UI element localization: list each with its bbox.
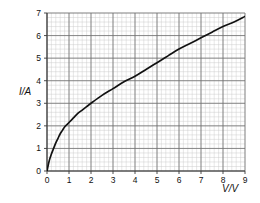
y-tick-label: 3 bbox=[36, 98, 41, 108]
y-tick-label: 1 bbox=[36, 143, 41, 153]
x-tick-label: 3 bbox=[111, 175, 116, 185]
y-tick-label: 5 bbox=[36, 53, 41, 63]
y-tick-label: 7 bbox=[36, 8, 41, 18]
chart-canvas: 0123456789 01234567 I/A V/V bbox=[0, 0, 260, 203]
x-tick-label: 1 bbox=[67, 175, 72, 185]
x-tick-label: 2 bbox=[89, 175, 94, 185]
x-tick-label: 4 bbox=[133, 175, 138, 185]
x-tick-label: 5 bbox=[155, 175, 160, 185]
y-tick-label: 4 bbox=[36, 76, 41, 86]
plot-area-background bbox=[47, 13, 245, 171]
y-tick-label: 6 bbox=[36, 31, 41, 41]
x-axis-title: V/V bbox=[222, 183, 239, 194]
y-tick-label: 2 bbox=[36, 121, 41, 131]
x-tick-label: 9 bbox=[243, 175, 248, 185]
x-tick-label: 0 bbox=[45, 175, 50, 185]
iv-characteristic-chart: 0123456789 01234567 I/A V/V bbox=[0, 0, 260, 203]
x-tick-label: 6 bbox=[177, 175, 182, 185]
y-axis-title: I/A bbox=[19, 86, 32, 97]
x-tick-label: 7 bbox=[199, 175, 204, 185]
y-tick-label: 0 bbox=[36, 166, 41, 176]
